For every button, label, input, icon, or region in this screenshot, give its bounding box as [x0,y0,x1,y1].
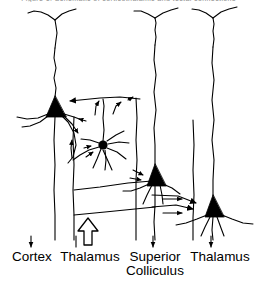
column-boundary-sc [136,98,137,240]
region-label-cortex: Cortex [2,250,62,264]
region-label-colliculus: Colliculus [122,264,188,278]
boundary-terminal-left [79,119,86,121]
cortical-collateral-descending [61,115,78,163]
tectothalamic-projections [152,195,196,213]
bottom-direction-arrows [31,236,211,247]
circuit-diagram-svg [0,0,257,282]
neuron-thalamic-relay-left [73,99,129,170]
ascending-input-arrow [78,218,98,245]
region-label-thalamus-right: Thalamus [186,250,254,264]
descending-tract [74,181,155,215]
figure-canvas: Figure 1. Schematic of corticothalamic a… [0,0,257,282]
region-label-thalamus-left: Thalamus [58,250,122,264]
region-label-superior: Superior [122,250,188,264]
neuron-thalamic-relay-right [176,7,253,240]
local-arrow-cluster [95,97,133,115]
column-boundary-thal-right [193,120,194,240]
thalamocortical-boundary-axon [73,117,74,240]
